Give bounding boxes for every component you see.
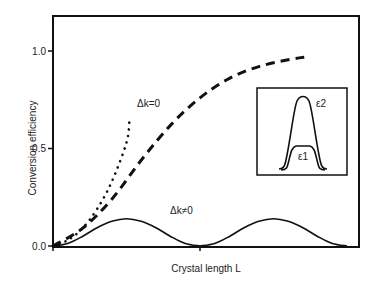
series-dk0-dotted	[53, 121, 129, 246]
inset: ε2 ε1	[257, 88, 347, 175]
inset-label-e1: ε1	[298, 151, 308, 162]
annotation-dk-nonzero: Δk≠0	[170, 205, 193, 216]
y-axis-title: Conversion efficiency	[27, 101, 38, 196]
inset-label-e2: ε2	[316, 98, 326, 109]
series-dk-nonzero-arch-1	[53, 219, 200, 246]
annotation-dk-zero: Δk=0	[137, 98, 161, 109]
series-dk-nonzero-arch-2	[200, 219, 347, 246]
x-axis-title: Crystal length L	[171, 263, 241, 274]
y-tick-label: 1.0	[32, 46, 46, 57]
chart: 0.00.51.0 Conversion efficiency Crystal …	[0, 0, 372, 285]
y-tick-label: 0.0	[32, 241, 46, 252]
